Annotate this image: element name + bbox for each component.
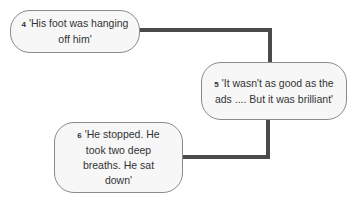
- node-number: 4: [22, 20, 26, 29]
- node-text: 'He stopped. He took two deep breaths. H…: [83, 128, 160, 186]
- node-number: 5: [214, 80, 218, 89]
- connector-5-to-6-vertical: [266, 119, 270, 159]
- connector-5-to-6-horizontal: [182, 155, 270, 159]
- quote-node-5-content: 5'It wasn't as good as the ads .... But …: [214, 76, 334, 107]
- node-text: 'His foot was hanging off him': [29, 17, 128, 45]
- quote-node-6-content: 6'He stopped. He took two deep breaths. …: [69, 127, 168, 188]
- node-text: 'It wasn't as good as the ads .... But i…: [215, 77, 334, 105]
- connector-4-to-5-vertical: [268, 28, 272, 64]
- quote-node-6: 6'He stopped. He took two deep breaths. …: [54, 122, 183, 193]
- node-number: 6: [77, 131, 81, 140]
- quote-node-4-content: 4'His foot was hanging off him': [21, 16, 129, 47]
- quote-node-5: 5'It wasn't as good as the ads .... But …: [201, 62, 347, 120]
- connector-4-to-5-horizontal: [139, 28, 272, 32]
- quote-node-4: 4'His foot was hanging off him': [10, 10, 140, 53]
